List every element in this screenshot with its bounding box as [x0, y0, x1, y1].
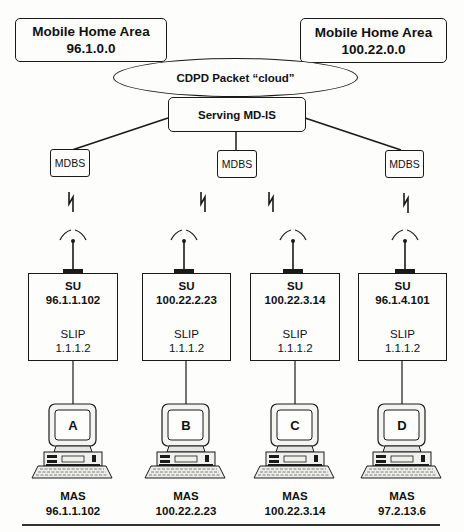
mobile-host-d: D: [355, 402, 449, 480]
su-address: 96.1.1.102: [46, 293, 100, 307]
su-address: 96.1.4.101: [375, 293, 429, 307]
mobile-home-area-1: Mobile Home Area 96.1.0.0: [15, 18, 167, 62]
slip-label: SLIP: [390, 327, 415, 341]
slip-label: SLIP: [283, 327, 308, 341]
mas-address: 97.2.13.6: [352, 504, 452, 519]
link-mdis-mdbs-1: [72, 118, 168, 150]
su-address: 100.22.2.23: [156, 293, 217, 307]
su-address: 100.22.3.14: [265, 293, 326, 307]
mdbs-3: MDBS: [385, 150, 424, 178]
desktop-computer-icon: [139, 402, 233, 480]
home-area-title: Mobile Home Area: [32, 23, 149, 40]
mdbs-label: MDBS: [55, 157, 85, 169]
mdbs-2: MDBS: [217, 150, 257, 178]
mdbs-label: MDBS: [222, 158, 252, 170]
desktop-computer-icon: [355, 402, 449, 480]
mas-title: MAS: [352, 489, 452, 504]
mobile-home-area-2: Mobile Home Area 100.22.0.0: [300, 18, 447, 63]
md-is-label: Serving MD-IS: [198, 109, 276, 121]
desktop-computer-icon: [248, 402, 342, 480]
cdpd-packet-cloud: CDPD Packet “cloud”: [113, 58, 358, 97]
subscriber-unit-1: SU 96.1.1.102 SLIP 1.1.1.2: [28, 273, 118, 361]
screen-letter: A: [26, 418, 120, 433]
lightning-bolt-icon: [401, 191, 411, 215]
antenna-icon: [52, 226, 94, 276]
mas-title: MAS: [136, 489, 236, 504]
mobile-host-b: B: [139, 402, 233, 480]
mdbs-label: MDBS: [389, 158, 419, 170]
slip-address: 1.1.1.2: [277, 341, 312, 355]
su-title: SU: [287, 279, 303, 293]
mdbs-1: MDBS: [50, 149, 90, 177]
lightning-bolt-icon: [66, 190, 76, 214]
su-title: SU: [65, 279, 81, 293]
screen-letter: D: [355, 418, 449, 433]
link-mdis-mdbs-3: [305, 118, 401, 150]
slip-address: 1.1.1.2: [385, 341, 420, 355]
mobile-host-a: A: [26, 402, 120, 480]
subscriber-unit-3: SU 100.22.3.14 SLIP 1.1.1.2: [250, 273, 340, 361]
slip-address: 1.1.1.2: [169, 341, 204, 355]
mobile-host-c: C: [248, 402, 342, 480]
mas-title: MAS: [245, 489, 345, 504]
antenna-icon: [272, 226, 314, 276]
home-area-title: Mobile Home Area: [315, 24, 432, 41]
cloud-label: CDPD Packet “cloud”: [176, 72, 294, 84]
subscriber-unit-4: SU 96.1.4.101 SLIP 1.1.1.2: [358, 273, 447, 361]
mas-label-b: MAS 100.22.2.23: [136, 489, 236, 519]
slip-label: SLIP: [61, 327, 86, 341]
lightning-bolt-icon: [198, 190, 208, 214]
desktop-computer-icon: [26, 402, 120, 480]
antenna-icon: [384, 226, 426, 276]
mas-address: 100.22.3.14: [245, 504, 345, 519]
screen-letter: C: [248, 418, 342, 433]
subscriber-unit-2: SU 100.22.2.23 SLIP 1.1.1.2: [142, 273, 231, 361]
mas-label-c: MAS 100.22.3.14: [245, 489, 345, 519]
mas-address: 96.1.1.102: [23, 504, 123, 519]
mas-label-d: MAS 97.2.13.6: [352, 489, 452, 519]
home-area-address: 100.22.0.0: [342, 41, 406, 58]
home-area-address: 96.1.0.0: [67, 40, 116, 57]
mas-label-a: MAS 96.1.1.102: [23, 489, 123, 519]
slip-label: SLIP: [174, 327, 199, 341]
mas-title: MAS: [23, 489, 123, 504]
lightning-bolt-icon: [266, 190, 276, 214]
antenna-icon: [163, 226, 205, 276]
su-title: SU: [395, 279, 411, 293]
serving-md-is: Serving MD-IS: [168, 97, 306, 132]
mas-address: 100.22.2.23: [136, 504, 236, 519]
screen-letter: B: [139, 418, 233, 433]
su-title: SU: [179, 279, 195, 293]
slip-address: 1.1.1.2: [55, 341, 90, 355]
